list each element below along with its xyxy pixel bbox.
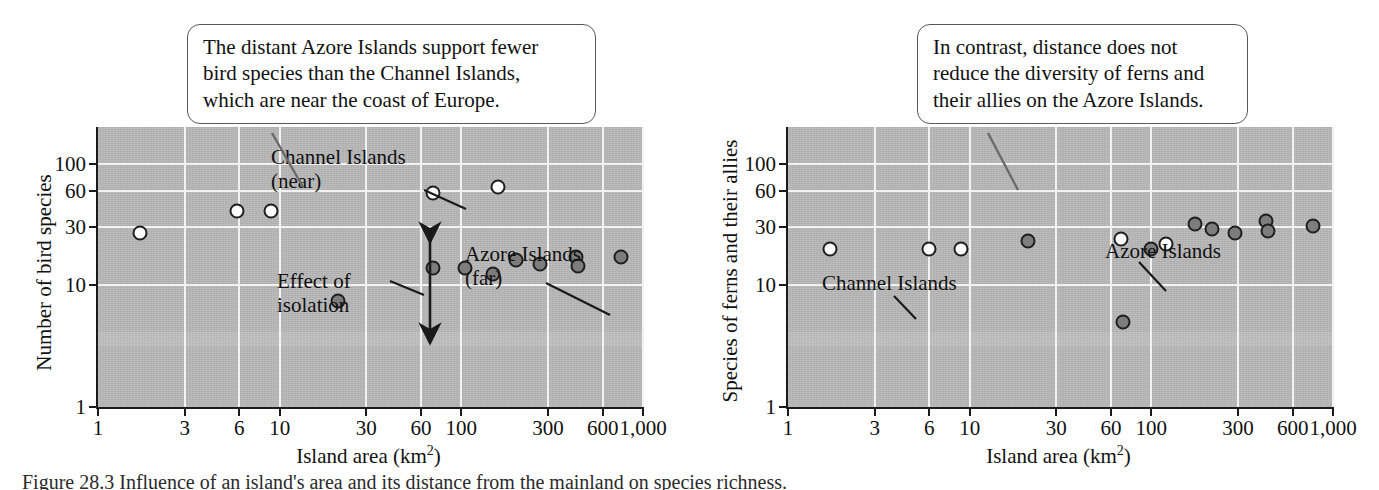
- callout-bird-line-2: bird species than the Channel Islands,: [203, 60, 581, 86]
- y-axis-tick-label: 30: [755, 215, 776, 240]
- y-axis-tick-label: 60: [755, 178, 776, 203]
- data-point: [264, 203, 279, 218]
- x-axis-tick: [460, 407, 462, 416]
- y-axis-tick: [89, 284, 98, 286]
- x-axis-tick: [1332, 407, 1334, 416]
- gridline-vertical: [238, 127, 240, 407]
- y-axis-tick: [89, 226, 98, 228]
- x-axis-tick: [1055, 407, 1057, 416]
- x-axis-title-left-tail: ): [434, 444, 441, 468]
- annotation-azore-islands-right-line-1: Azore Islands: [1105, 240, 1221, 264]
- x-axis-tick: [1110, 407, 1112, 416]
- annotation-azore-islands-far-line-1: Azore Islands: [465, 243, 581, 267]
- callout-fern-line-3: their allies on the Azore Islands.: [933, 87, 1233, 113]
- annotation-effect-of-isolation-line-2: isolation: [277, 294, 351, 318]
- y-axis-title-left: Number of bird species: [32, 143, 57, 403]
- plot-area-ferns: 11030601001361030601003006001,000: [786, 127, 1333, 409]
- annotation-azore-islands-right: Azore Islands: [1105, 240, 1221, 264]
- y-axis-tick-label: 10: [755, 273, 776, 298]
- gridline-vertical: [928, 127, 930, 407]
- x-axis-tick: [420, 407, 422, 416]
- x-axis-tick: [969, 407, 971, 416]
- data-point: [1021, 234, 1036, 249]
- x-axis-tick: [279, 407, 281, 416]
- gridline-vertical: [642, 127, 644, 407]
- callout-fern-line-1: In contrast, distance does not: [933, 34, 1233, 60]
- x-axis-tick: [547, 407, 549, 416]
- x-axis-title-left-sup: 2: [427, 443, 434, 458]
- x-axis-title-left: Island area (km2): [96, 443, 641, 469]
- x-axis-tick-label: 60: [1101, 416, 1122, 441]
- y-axis-tick-label: 10: [65, 273, 86, 298]
- x-axis-title-right-text: Island area (km: [986, 444, 1117, 468]
- annotation-azore-islands-far-line-2: (far): [465, 267, 581, 291]
- data-point: [1261, 223, 1276, 238]
- x-axis-tick-label: 100: [1136, 416, 1168, 441]
- gridline-vertical: [184, 127, 186, 407]
- x-axis-tick: [642, 407, 644, 416]
- annotation-channel-islands-near-line-1: Channel Islands: [271, 146, 406, 170]
- x-axis-tick: [365, 407, 367, 416]
- annotation-channel-islands-near-left: Channel Islands (near): [271, 146, 406, 193]
- x-axis-tick-label: 300: [1222, 416, 1254, 441]
- callout-bird-line-1: The distant Azore Islands support fewer: [203, 34, 581, 60]
- x-axis-title-left-text: Island area (km: [296, 444, 427, 468]
- y-axis-tick: [779, 226, 788, 228]
- x-axis-tick-label: 10: [269, 416, 290, 441]
- y-axis-tick: [89, 163, 98, 165]
- x-axis-title-right-tail: ): [1124, 444, 1131, 468]
- gridline-vertical: [874, 127, 876, 407]
- data-point: [922, 241, 937, 256]
- callout-fern-line-2: reduce the diversity of ferns and: [933, 60, 1233, 86]
- gridline-vertical: [1237, 127, 1239, 407]
- y-axis-tick-label: 100: [55, 151, 87, 176]
- x-axis-tick: [238, 407, 240, 416]
- y-axis-tick-label: 100: [745, 151, 777, 176]
- y-axis-tick-label: 1: [76, 395, 87, 420]
- data-point: [822, 241, 837, 256]
- data-point: [491, 180, 506, 195]
- x-axis-tick-label: 1,000: [1309, 416, 1356, 441]
- annotation-channel-islands-near-line-2: (near): [271, 170, 406, 194]
- annotation-effect-of-isolation: Effect of isolation: [277, 270, 351, 317]
- x-axis-tick-label: 1,000: [619, 416, 666, 441]
- x-axis-tick-label: 3: [179, 416, 190, 441]
- x-axis-tick-label: 100: [446, 416, 478, 441]
- gridline-horizontal: [788, 190, 1333, 192]
- callout-fern-species: In contrast, distance does not reduce th…: [917, 24, 1248, 124]
- plot-grain-right: [788, 127, 1333, 407]
- x-axis-tick-label: 10: [959, 416, 980, 441]
- x-axis-tick-label: 600: [587, 416, 619, 441]
- x-axis-tick-label: 30: [1046, 416, 1067, 441]
- x-axis-tick-label: 60: [411, 416, 432, 441]
- plot-band-right: [788, 332, 1333, 346]
- x-axis-tick: [1292, 407, 1294, 416]
- gridline-horizontal: [98, 226, 643, 228]
- gridline-vertical: [1292, 127, 1294, 407]
- data-point: [1228, 225, 1243, 240]
- gridline-horizontal: [788, 163, 1333, 165]
- y-axis-tick-label: 1: [766, 395, 777, 420]
- gridline-vertical: [420, 127, 422, 407]
- x-axis-title-right: Island area (km2): [786, 443, 1331, 469]
- data-point: [954, 241, 969, 256]
- y-axis-title-right: Species of ferns and their allies: [718, 143, 743, 403]
- x-axis-tick-label: 600: [1277, 416, 1309, 441]
- x-axis-tick-label: 6: [924, 416, 935, 441]
- data-point: [229, 203, 244, 218]
- gridline-horizontal: [788, 226, 1333, 228]
- x-axis-tick-label: 1: [783, 416, 794, 441]
- y-axis-tick: [779, 190, 788, 192]
- y-axis-tick: [779, 163, 788, 165]
- callout-bird-species: The distant Azore Islands support fewer …: [187, 24, 596, 124]
- x-axis-tick: [97, 407, 99, 416]
- gridline-vertical: [1055, 127, 1057, 407]
- gridline-vertical: [1150, 127, 1152, 407]
- annotation-effect-of-isolation-line-1: Effect of: [277, 270, 351, 294]
- annotation-channel-islands-right: Channel Islands: [822, 272, 957, 296]
- x-axis-title-right-sup: 2: [1117, 443, 1124, 458]
- callout-bird-line-3: which are near the coast of Europe.: [203, 87, 581, 113]
- data-point: [426, 186, 441, 201]
- y-axis-tick: [779, 284, 788, 286]
- y-axis-tick-label: 60: [65, 178, 86, 203]
